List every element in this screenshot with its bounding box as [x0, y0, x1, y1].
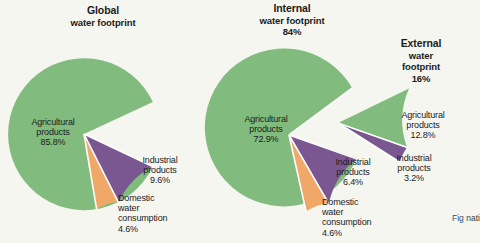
title-external-line1: External [401, 37, 442, 49]
title-global-line1: Global [87, 4, 119, 16]
label-internal-industrial: Industrial products 6.4% [322, 157, 384, 188]
title-internal-line2: water footprint [228, 15, 356, 27]
label-external-industrial: Industrial products 3.2% [382, 153, 446, 184]
chart-title-external: External water footprint 16% [378, 38, 464, 84]
caption-line1: Fig [452, 213, 464, 223]
label-global-agricultural: Agricultural products 85.8% [7, 117, 99, 148]
label-external-agricultural: Agricultural products 12.8% [388, 110, 458, 141]
label-global-industrial: Industrial products 9.6% [127, 155, 193, 186]
chart-title-global: Global water footprint [38, 5, 168, 28]
title-external-value: 16% [378, 73, 464, 85]
label-internal-domestic: Domestic water consumption 4.6% [322, 197, 398, 238]
caption-line2: nati [466, 213, 480, 223]
title-internal-value: 84% [228, 26, 356, 38]
figure-caption: Fig nati [452, 213, 480, 223]
chart-title-internal: Internal water footprint 84% [228, 3, 356, 38]
label-internal-agricultural: Agricultural products 72.9% [225, 114, 307, 145]
title-external-line2: water [378, 50, 464, 62]
label-global-domestic: Domestic water consumption 4.6% [118, 193, 192, 234]
title-internal-line1: Internal [273, 2, 310, 14]
title-global-line2: water footprint [38, 17, 168, 29]
title-external-line3: footprint [378, 61, 464, 73]
